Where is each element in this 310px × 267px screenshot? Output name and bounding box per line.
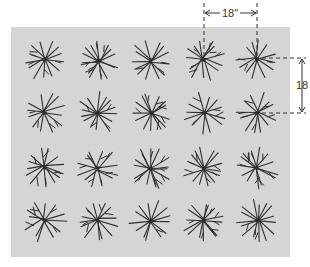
vertical-spacing-label: 18 — [296, 79, 308, 91]
dimension-lines — [0, 0, 310, 267]
horizontal-spacing-label: 18" — [220, 7, 240, 19]
